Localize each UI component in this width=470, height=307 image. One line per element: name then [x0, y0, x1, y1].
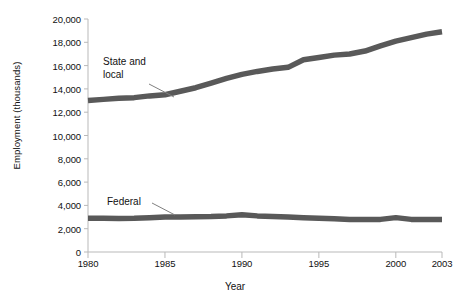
- series-line-federal: [88, 215, 442, 220]
- label-leader-lines: [149, 84, 175, 215]
- series-label-federal: Federal: [107, 196, 141, 209]
- plot-area: [0, 0, 470, 307]
- axis-tick-marks: [84, 19, 442, 258]
- employment-line-chart: Employment (thousands) Year 02,0004,0006…: [0, 0, 470, 307]
- series-label-state-and-local: State and local: [103, 56, 146, 81]
- leader-line-federal: [152, 203, 175, 215]
